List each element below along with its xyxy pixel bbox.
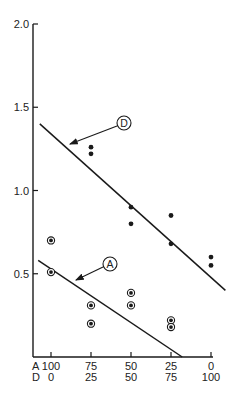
point-d <box>169 241 174 246</box>
x-tick-label-d: 0 <box>48 371 54 383</box>
callout-arrow-a <box>76 267 103 280</box>
x-tick-label-d: 50 <box>125 371 137 383</box>
x-row-label-d: D <box>32 371 40 383</box>
point-d <box>169 213 174 218</box>
point-a <box>49 239 53 243</box>
data-points <box>47 145 213 331</box>
point-a <box>129 291 133 295</box>
callout-label-d: D <box>120 117 128 129</box>
point-d <box>89 145 94 150</box>
x-tick-label-d: 75 <box>165 371 177 383</box>
y-tick-label: 1.0 <box>14 185 29 197</box>
point-d <box>89 151 94 156</box>
point-d <box>209 255 214 260</box>
point-d <box>209 263 214 268</box>
point-a <box>169 318 173 322</box>
x-tick-label-d: 100 <box>202 371 220 383</box>
point-a <box>49 270 53 274</box>
point-a <box>89 303 93 307</box>
point-d <box>129 221 134 226</box>
y-tick-label: 2.0 <box>14 18 29 30</box>
point-a <box>89 322 93 326</box>
fit-line-a <box>38 260 182 357</box>
scatter-chart: 0.51.01.52.010007525505025750100AD DA <box>0 0 238 399</box>
point-d <box>129 205 134 210</box>
y-tick-label: 1.5 <box>14 101 29 113</box>
fit-lines <box>38 124 225 357</box>
callout-arrow-d <box>70 126 117 144</box>
callout-label-a: A <box>106 258 113 270</box>
point-a <box>169 325 173 329</box>
axes: 0.51.01.52.010007525505025750100AD <box>14 18 220 383</box>
x-tick-label-d: 25 <box>85 371 97 383</box>
point-a <box>129 303 133 307</box>
y-tick-label: 0.5 <box>14 268 29 280</box>
